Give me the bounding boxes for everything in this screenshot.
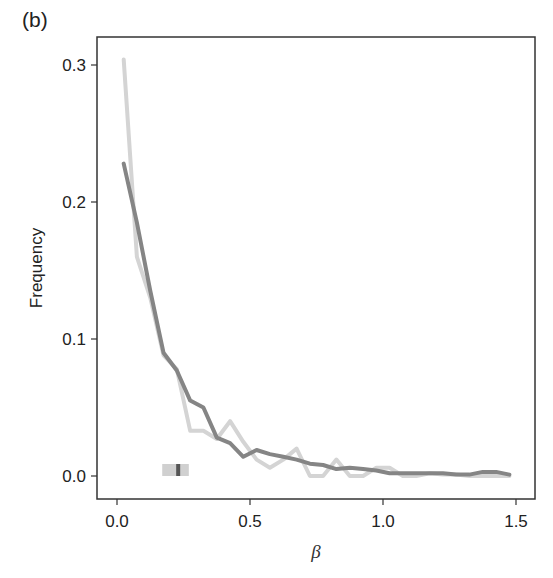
interval-center (176, 464, 180, 476)
x-axis: 0.00.51.01.5 (105, 499, 528, 531)
x-tick-label: 1.0 (371, 512, 395, 531)
y-tick-label: 0.2 (62, 193, 86, 212)
x-tick-label: 1.5 (504, 512, 528, 531)
x-axis-title: β (310, 541, 321, 562)
chart: 0.00.10.20.3 0.00.51.01.5 Frequency β (0, 0, 553, 578)
y-tick-label: 0.0 (62, 467, 86, 486)
x-tick-label: 0.5 (238, 512, 262, 531)
y-tick-label: 0.3 (62, 56, 86, 75)
series-lines (124, 60, 510, 477)
x-tick-label: 0.0 (105, 512, 129, 531)
interval-band (162, 464, 189, 476)
interval-marker (162, 464, 189, 476)
y-tick-label: 0.1 (62, 330, 86, 349)
y-axis: 0.00.10.20.3 (62, 56, 97, 486)
plot-frame (97, 37, 535, 499)
series-light (124, 60, 510, 477)
y-axis-title: Frequency (27, 227, 46, 308)
series-dark (124, 164, 510, 475)
